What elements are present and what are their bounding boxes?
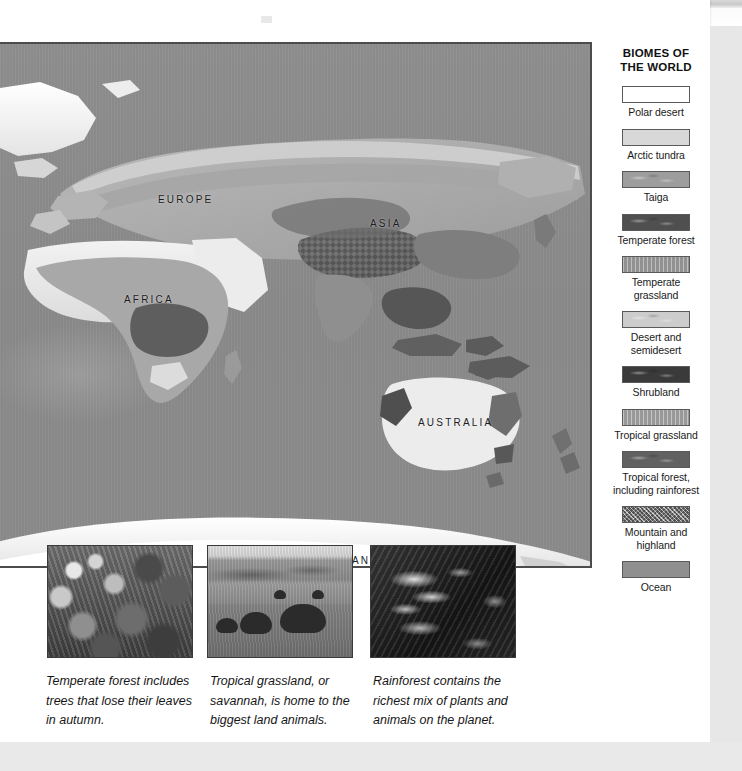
legend-label: Tropical forest,including rainforest <box>608 471 704 496</box>
legend-swatch <box>622 366 690 383</box>
legend-item: Polar desert <box>608 86 704 119</box>
rainforest-photo <box>370 545 516 658</box>
legend-label: Desert andsemidesert <box>608 331 704 356</box>
savannah-photo <box>207 545 353 658</box>
elephant-small <box>240 612 272 634</box>
legend-label: Mountain andhighland <box>608 526 704 551</box>
legend-item: Temperate forest <box>608 214 704 247</box>
legend-label: Polar desert <box>608 106 704 119</box>
legend-item: Taiga <box>608 171 704 204</box>
legend-item: Shrubland <box>608 366 704 399</box>
legend-title-line-2: THE WORLD <box>608 60 704 74</box>
legend-swatch <box>622 409 690 426</box>
legend-item: Temperate grassland <box>608 256 704 301</box>
page-bottom-margin <box>0 742 742 771</box>
map-label-europe: EUROPE <box>158 194 213 205</box>
map-label-africa: AFRICA <box>124 294 174 305</box>
legend-title: BIOMES OF THE WORLD <box>608 46 704 74</box>
elephant-distant <box>274 590 286 599</box>
elephant-far <box>216 618 238 633</box>
world-biomes-map: EUROPE ASIA AFRICA AUSTRALIA ANTARCTICA <box>0 42 592 568</box>
caption-tropical-grassland: Tropical grassland, or savannah, is home… <box>210 672 362 731</box>
legend-label: Tropical grassland <box>608 429 704 442</box>
legend-swatch <box>622 86 690 103</box>
legend-swatch <box>622 129 690 146</box>
legend-item: Tropical forest,including rainforest <box>608 451 704 496</box>
map-label-asia: ASIA <box>370 218 402 229</box>
temperate-forest-photo <box>47 545 193 658</box>
elephant-large <box>280 604 326 633</box>
legend-item: Ocean <box>608 561 704 594</box>
legend-item: Desert andsemidesert <box>608 311 704 356</box>
caption-rainforest: Rainforest contains the richest mix of p… <box>373 672 525 731</box>
temperate-forest-photo-image <box>48 546 192 657</box>
legend-item: Mountain andhighland <box>608 506 704 551</box>
legend-title-line-1: BIOMES OF <box>608 46 704 60</box>
legend-item-list: Polar desertArctic tundraTaigaTemperate … <box>608 86 704 594</box>
legend-swatch <box>622 311 690 328</box>
legend-label: Temperate grassland <box>608 276 704 301</box>
rainforest-photo-image <box>371 546 515 657</box>
legend-swatch <box>622 451 690 468</box>
legend-label: Temperate forest <box>608 234 704 247</box>
map-legend: BIOMES OF THE WORLD Polar desertArctic t… <box>608 46 704 604</box>
page-right-margin <box>710 26 742 742</box>
legend-label: Ocean <box>608 581 704 594</box>
legend-swatch <box>622 561 690 578</box>
map-ocean-background <box>0 44 590 566</box>
map-label-australia: AUSTRALIA <box>418 417 493 428</box>
savannah-photo-image <box>208 546 352 657</box>
legend-swatch <box>622 171 690 188</box>
legend-item: Arctic tundra <box>608 129 704 162</box>
legend-label: Shrubland <box>608 386 704 399</box>
legend-swatch <box>622 214 690 231</box>
legend-label: Taiga <box>608 191 704 204</box>
scan-artifact <box>261 16 272 23</box>
legend-label: Arctic tundra <box>608 149 704 162</box>
legend-swatch <box>622 256 690 273</box>
legend-item: Tropical grassland <box>608 409 704 442</box>
elephant-distant-2 <box>312 590 324 599</box>
caption-temperate-forest: Temperate forest includes trees that los… <box>46 672 198 731</box>
savannah-texture <box>208 546 352 657</box>
legend-swatch <box>622 506 690 523</box>
